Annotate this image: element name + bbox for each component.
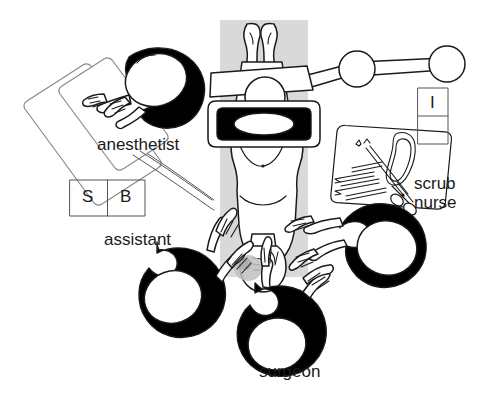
lamp-lens xyxy=(234,113,294,135)
label-scrub-line1: scrub xyxy=(414,174,456,193)
label-assistant: assistant xyxy=(104,230,171,249)
lamp-arm-joint-1 xyxy=(339,51,375,87)
label-scrub-nurse: scrubnurse xyxy=(414,174,457,212)
i-box-cell-i: I xyxy=(430,93,435,113)
surgical-team-diagram: .ln { fill:none; stroke:#1a1a1a; stroke-… xyxy=(0,0,493,399)
sb-box-cell-b: B xyxy=(120,187,131,207)
label-scrub-line2: nurse xyxy=(414,193,457,212)
label-anesthetist: anesthetist xyxy=(97,135,179,154)
sb-box-cell-s: S xyxy=(82,187,93,207)
label-surgeon: surgeon xyxy=(259,362,320,381)
lamp-arm-joint-2 xyxy=(429,46,465,82)
